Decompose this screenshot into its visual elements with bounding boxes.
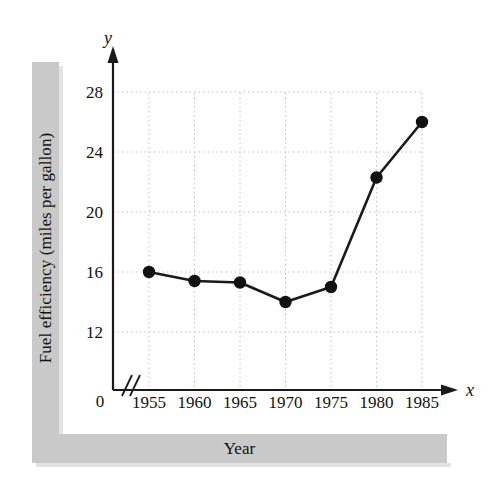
x-tick-label: 1965	[223, 393, 257, 412]
axes	[108, 46, 459, 396]
data-point-marker	[416, 116, 428, 128]
x-tick-label: 1980	[360, 393, 394, 412]
y-tick-label: 16	[86, 263, 103, 282]
y-tick-labels: 1216202428	[86, 83, 104, 342]
data-point-marker	[143, 266, 155, 278]
x-axis-variable-letter: x	[465, 380, 474, 400]
x-tick-label: 1960	[178, 393, 212, 412]
origin-tick-label: 0	[96, 392, 105, 411]
data-point-marker	[370, 171, 382, 183]
fuel-efficiency-figure: Fuel efficiency (miles per gallon) Year …	[0, 0, 503, 480]
x-tick-labels: 1955196019651970197519801985	[132, 393, 439, 412]
x-axis-arrowhead	[441, 385, 458, 396]
axis-break-slash-1	[122, 375, 132, 396]
y-tick-label: 12	[86, 323, 103, 342]
line-chart-plot: 1216202428 1955196019651970197519801985 …	[0, 0, 503, 480]
data-point-marker	[325, 281, 337, 293]
y-tick-label: 28	[86, 83, 103, 102]
y-axis-variable-letter: y	[102, 28, 112, 48]
x-tick-label: 1955	[132, 393, 166, 412]
y-axis-arrowhead	[108, 46, 119, 63]
x-tick-label: 1970	[269, 393, 303, 412]
gridlines	[113, 92, 422, 390]
data-point-marker	[234, 276, 246, 288]
y-tick-label: 24	[86, 143, 104, 162]
x-tick-label: 1985	[405, 393, 439, 412]
data-point-marker	[279, 296, 291, 308]
x-tick-label: 1975	[314, 393, 348, 412]
data-point-marker	[188, 275, 200, 287]
y-tick-label: 20	[86, 203, 103, 222]
